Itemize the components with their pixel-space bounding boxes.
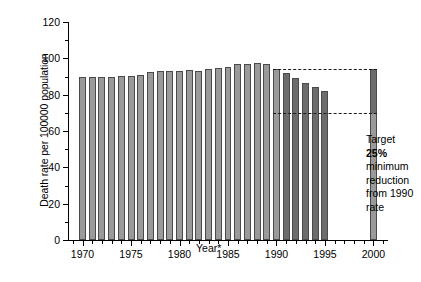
x-tick-label-2000: 2000 [362, 248, 385, 260]
bar-1977 [147, 72, 154, 240]
y-tick-label-120: 120 [42, 16, 60, 28]
bar-1975 [128, 76, 135, 240]
x-tick-1981 [189, 240, 190, 244]
1990-rate-line [273, 69, 377, 70]
bar-1990 [273, 69, 280, 240]
bar-1978 [157, 71, 164, 240]
annotation-line-6: rate [366, 201, 420, 215]
bar-1976 [137, 75, 144, 240]
y-tick-100: 100 [63, 58, 68, 59]
x-tick-1990 [276, 240, 277, 246]
x-tick-1998 [354, 240, 355, 244]
bar-1992 [292, 78, 299, 240]
x-tick-1970 [83, 240, 84, 246]
x-tick-label-1970: 1970 [71, 248, 94, 260]
bar-chart: Death rate per 100000 population 0204060… [0, 0, 421, 282]
bar-1979 [166, 71, 173, 240]
x-tick-label-1990: 1990 [265, 248, 288, 260]
y-tick-label-60: 60 [48, 125, 60, 137]
bar-1993 [302, 83, 309, 240]
x-tick-1978 [160, 240, 161, 244]
bar-1974 [118, 76, 125, 240]
y-tick-40: 40 [63, 167, 68, 168]
y-tick-label-80: 80 [48, 89, 60, 101]
y-tick-label-20: 20 [48, 198, 60, 210]
y-tick-label-0: 0 [54, 234, 60, 246]
annotation-line-1: Target [366, 133, 420, 147]
x-tick-1994 [315, 240, 316, 244]
y-tick-0: 0 [63, 240, 68, 241]
x-tick-1972 [102, 240, 103, 244]
y-axis-line [68, 22, 69, 240]
x-tick-1980 [180, 240, 181, 246]
bar-2000-reduction-segment [371, 70, 376, 114]
x-tick-1971 [92, 240, 93, 244]
x-tick-1975 [131, 240, 132, 246]
target-annotation: Target 25% minimum reduction from 1990 r… [366, 133, 420, 215]
x-tick-1997 [344, 240, 345, 244]
x-tick-1986 [238, 240, 239, 244]
bar-1973 [108, 77, 115, 241]
x-tick-1993 [306, 240, 307, 244]
x-tick-1988 [257, 240, 258, 244]
x-tick-1979 [170, 240, 171, 244]
x-tick-1991 [286, 240, 287, 244]
x-tick-2000 [373, 240, 374, 246]
x-tick-label-1995: 1995 [313, 248, 336, 260]
y-tick-label-100: 100 [42, 52, 60, 64]
bar-1994 [312, 87, 319, 240]
bar-1971 [89, 77, 96, 240]
annotation-line-3: minimum [366, 160, 420, 174]
y-tick-minor-10 [65, 222, 68, 223]
x-tick-1995 [325, 240, 326, 246]
annotation-line-2: 25% [366, 147, 420, 161]
y-tick-minor-30 [65, 186, 68, 187]
annotation-line-5: from 1990 [366, 187, 420, 201]
x-tick-1989 [267, 240, 268, 244]
bar-1972 [98, 77, 105, 240]
y-tick-20: 20 [63, 204, 68, 205]
y-tick-minor-70 [65, 113, 68, 114]
x-tick-1992 [296, 240, 297, 244]
y-tick-80: 80 [63, 95, 68, 96]
bar-1989 [263, 64, 270, 240]
x-axis-title: Year* [196, 242, 221, 254]
x-tick-1973 [112, 240, 113, 244]
x-tick-1969 [73, 240, 74, 244]
y-tick-minor-90 [65, 77, 68, 78]
bar-1984 [215, 68, 222, 240]
plot-area: 020406080100120 197019751980198519901995… [68, 22, 388, 240]
bar-1985 [225, 67, 232, 240]
x-tick-1977 [150, 240, 151, 244]
y-tick-60: 60 [63, 131, 68, 132]
bar-1991 [283, 73, 290, 240]
x-tick-1976 [141, 240, 142, 244]
x-tick-2001 [383, 240, 384, 244]
annotation-line-4: reduction [366, 174, 420, 188]
x-tick-1974 [121, 240, 122, 244]
x-tick-1985 [228, 240, 229, 246]
x-tick-1996 [335, 240, 336, 244]
x-tick-1987 [247, 240, 248, 244]
bar-1981 [186, 70, 193, 240]
bar-1982 [195, 71, 202, 240]
bar-1987 [244, 64, 251, 240]
y-tick-minor-50 [65, 149, 68, 150]
target-rate-line [273, 113, 377, 114]
y-tick-label-40: 40 [48, 161, 60, 173]
x-tick-1999 [364, 240, 365, 244]
bar-1988 [254, 63, 261, 240]
x-tick-label-1975: 1975 [119, 248, 142, 260]
bar-1986 [234, 64, 241, 240]
bar-1970 [79, 77, 86, 240]
y-tick-120: 120 [63, 22, 68, 23]
bar-1983 [205, 69, 212, 240]
y-tick-minor-110 [65, 40, 68, 41]
bar-1980 [176, 71, 183, 240]
x-tick-label-1980: 1980 [168, 248, 191, 260]
